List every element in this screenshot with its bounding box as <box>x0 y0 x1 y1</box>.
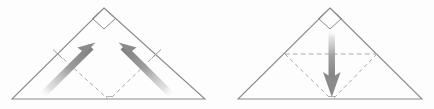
panel-left <box>12 8 205 99</box>
fold-arrow-up-right-icon <box>40 43 96 98</box>
fold-arrow-up-left-icon <box>119 43 175 98</box>
midpoint-tick-right-icon <box>152 50 162 59</box>
right-angle-square-icon-left <box>93 8 116 29</box>
fold-line-left-dashed-right-panel <box>285 54 331 99</box>
panel-right <box>238 8 422 99</box>
origami-fold-diagram <box>0 0 434 109</box>
fold-line-right-dashed-right-panel <box>333 54 377 99</box>
right-angle-square-icon-right <box>319 8 342 29</box>
triangle-outline-left <box>12 8 205 99</box>
figure-canvas <box>0 0 434 109</box>
fold-arrow-down-icon <box>323 29 341 97</box>
